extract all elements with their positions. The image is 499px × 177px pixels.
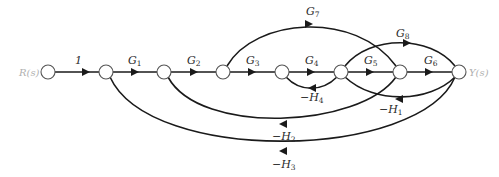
gain-label-g6: G6	[424, 54, 438, 68]
branch-g8	[345, 43, 455, 66]
node-2	[99, 65, 113, 79]
input-label: R(s)	[18, 67, 40, 78]
node-7	[393, 65, 407, 79]
arrow-right-icon	[82, 68, 90, 76]
gain-labels: 1 G1 G2 G3 G4 G5 G6 G7 G8 −H4 −H1 −H2 −H…	[75, 5, 438, 172]
arrow-right-icon	[131, 68, 139, 76]
gain-label-g5: G5	[364, 54, 378, 68]
branch-h1	[345, 77, 455, 97]
gain-label-h1: −H1	[379, 103, 403, 117]
gain-label-h3: −H3	[272, 158, 296, 172]
node-input	[41, 65, 55, 79]
arrow-right-icon	[366, 68, 374, 76]
output-label: Y(s)	[469, 67, 489, 78]
gain-label-g1: G1	[128, 54, 142, 68]
node-5	[275, 65, 289, 79]
node-6	[334, 65, 348, 79]
arrow-right-icon	[248, 68, 256, 76]
gain-label-g7: G7	[306, 5, 320, 19]
gain-label-g3: G3	[246, 54, 260, 68]
arrow-right-icon	[190, 68, 198, 76]
signal-flow-graph: R(s) Y(s) 1 G1 G2 G3 G4 G5 G6 G7 G8 −H4 …	[0, 0, 499, 177]
arrow-right-icon	[307, 68, 315, 76]
gain-label-1: 1	[75, 54, 82, 67]
arrow-right-icon	[425, 68, 433, 76]
arrowheads	[82, 20, 433, 155]
arrow-left-icon	[279, 147, 287, 155]
gain-label-g2: G2	[187, 54, 201, 68]
node-3	[157, 65, 171, 79]
node-output	[452, 65, 466, 79]
gain-label-h4: −H4	[300, 91, 324, 105]
arrow-left-icon	[279, 120, 287, 128]
gain-label-g8: G8	[396, 27, 410, 41]
branch-h2	[168, 77, 396, 118]
node-4	[216, 65, 230, 79]
gain-label-g4: G4	[305, 54, 319, 68]
gain-label-h2: −H2	[272, 130, 296, 144]
